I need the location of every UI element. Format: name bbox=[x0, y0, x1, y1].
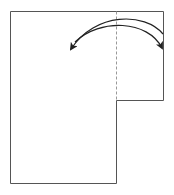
fold-diagram-svg bbox=[0, 0, 174, 195]
sheet-outline bbox=[11, 12, 164, 184]
fold-diagram bbox=[0, 0, 174, 195]
